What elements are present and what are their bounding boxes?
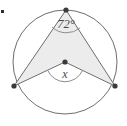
vertex-dot-right [112,83,117,88]
circle-geometry-diagram: 72° x [0,0,127,126]
vertex-dot-apex [63,7,68,12]
vertex-dot-center [62,59,67,64]
inscribed-angle-label: 72° [57,17,75,31]
figure-container: 72° x [0,0,127,126]
central-angle-label: x [61,67,68,81]
vertex-dot-left [11,83,16,88]
stray-pixel-mark [1,10,4,13]
